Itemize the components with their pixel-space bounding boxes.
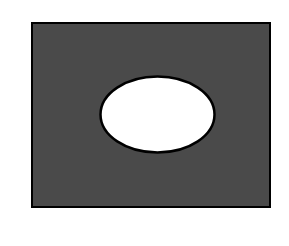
venn-diagram [0,0,289,246]
diagram-canvas [0,0,289,246]
set-ellipse [101,77,215,153]
